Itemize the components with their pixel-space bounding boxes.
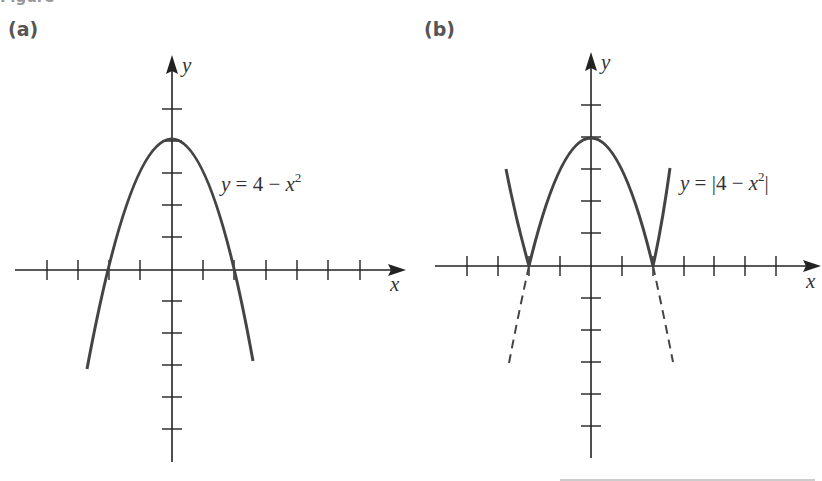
panel-a-x-label: x — [389, 272, 400, 296]
panel-b-abs-curve-left — [506, 169, 529, 266]
panel-b-equation: y = |4 − x2| — [678, 169, 769, 195]
panel-b-dashed-right — [653, 266, 673, 362]
panel-b-abs-curve-right — [653, 168, 670, 266]
panel-a-chart: y x y = 4 − x2 — [15, 53, 406, 462]
figure-canvas: y x y = 4 − x2 — [0, 0, 822, 481]
panel-b-chart: y x y = |4 − x2| — [435, 50, 821, 458]
panel-b-dashed-left — [509, 266, 529, 363]
panel-b-y-label: y — [599, 50, 611, 74]
panel-a-y-label: y — [180, 53, 192, 77]
panel-b-x-label: x — [805, 269, 816, 293]
panel-a-equation: y = 4 − x2 — [219, 170, 301, 196]
